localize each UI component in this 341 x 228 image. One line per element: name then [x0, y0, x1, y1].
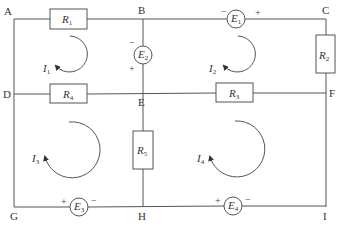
circuit-diagram: A B C D E F G H I R1 R2 R3 R4 R5 E1 − + …: [0, 0, 341, 228]
source-e2-sub: 2: [145, 54, 149, 62]
node-label-c: C: [322, 4, 329, 16]
loop-current-i1-sub: 1: [47, 68, 51, 76]
resistor-r5-sub: 5: [144, 150, 148, 158]
loop-current-i3-sub: 3: [36, 158, 40, 166]
wires: [14, 19, 326, 207]
svg-text:I4: I4: [196, 152, 205, 166]
source-e4-sub: 4: [235, 205, 239, 213]
node-label-a: A: [4, 5, 12, 17]
source-e1: E1 − +: [221, 6, 261, 28]
svg-text:I1: I1: [42, 62, 51, 76]
loop-current-i2: I2: [208, 36, 255, 76]
resistor-r2-sub: 2: [326, 55, 330, 63]
source-e1-neg: −: [221, 6, 227, 17]
source-e3-neg: −: [91, 195, 97, 206]
resistor-r3-sub: 3: [236, 93, 240, 101]
clockwise-arrow-icon: [210, 121, 265, 177]
source-e1-sub: 1: [238, 18, 242, 26]
source-e4-neg: −: [245, 194, 251, 205]
source-e2-pos: +: [129, 63, 135, 74]
source-e3: E3 − +: [61, 195, 97, 216]
source-e3-sub: 3: [81, 206, 85, 214]
node-label-h: H: [138, 210, 146, 222]
svg-text:I2: I2: [208, 62, 217, 76]
node-label-g: G: [10, 210, 18, 222]
resistor-r3: R3: [216, 83, 253, 102]
source-e1-pos: +: [255, 7, 261, 18]
source-e4: E4 − +: [215, 194, 251, 215]
resistor-r4-sub: 4: [70, 94, 74, 102]
resistor-r2: R2: [316, 35, 335, 73]
loop-current-i3: I3: [31, 122, 100, 178]
node-label-e: E: [138, 96, 145, 108]
resistor-r1: R1: [50, 9, 87, 29]
loop-current-i4: I4: [196, 121, 265, 177]
loop-current-i2-sub: 2: [213, 68, 217, 76]
loop-current-i1: I1: [42, 36, 87, 76]
source-e4-pos: +: [215, 195, 221, 206]
clockwise-arrow-icon: [56, 36, 87, 72]
resistor-r1-sub: 1: [69, 19, 73, 27]
source-e3-pos: +: [61, 196, 67, 207]
clockwise-arrow-icon: [45, 122, 100, 178]
node-label-d: D: [3, 88, 11, 100]
node-label-b: B: [138, 4, 145, 16]
source-e2: E2 − +: [129, 37, 152, 74]
node-label-f: F: [329, 87, 335, 99]
resistor-r5: R5: [133, 131, 153, 169]
svg-text:I3: I3: [31, 152, 40, 166]
source-e2-neg: −: [129, 37, 135, 48]
node-label-i: I: [323, 210, 327, 222]
resistor-r4: R4: [50, 84, 87, 103]
clockwise-arrow-icon: [224, 36, 255, 72]
loop-current-i4-sub: 4: [201, 158, 205, 166]
